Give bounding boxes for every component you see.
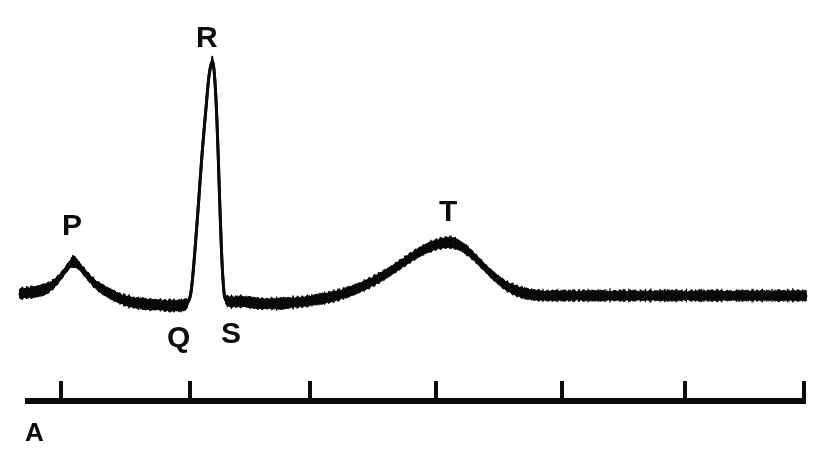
- panel-label-a: A: [25, 419, 44, 445]
- wave-label-p: P: [62, 210, 82, 240]
- ecg-trace-canvas: [0, 0, 824, 469]
- wave-label-r: R: [196, 22, 218, 52]
- wave-label-q: Q: [167, 322, 190, 352]
- wave-label-t: T: [439, 196, 457, 226]
- wave-label-s: S: [221, 318, 241, 348]
- ecg-figure: PRQST A: [0, 0, 824, 469]
